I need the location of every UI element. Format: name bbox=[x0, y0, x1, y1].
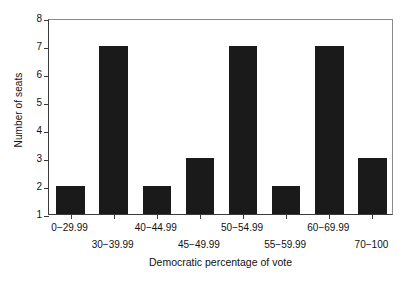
bars-group bbox=[49, 20, 392, 214]
y-tick-mark bbox=[44, 188, 49, 189]
x-axis-tick-labels: 0−29.9930−39.9940−44.9945−49.9950−54.995… bbox=[48, 222, 393, 258]
y-tick-label: 2 bbox=[16, 182, 42, 192]
y-tick-mark bbox=[44, 76, 49, 77]
x-tick-label: 60−69.99 bbox=[288, 222, 368, 234]
x-tick-label: 0−29.99 bbox=[30, 222, 110, 234]
bar bbox=[272, 186, 300, 214]
y-tick-label: 1 bbox=[16, 210, 42, 220]
bar-chart-figure: Number of seats 12345678 0−29.9930−39.99… bbox=[0, 0, 412, 281]
y-tick-label: 4 bbox=[16, 126, 42, 136]
y-tick-label: 3 bbox=[16, 154, 42, 164]
x-tick-mark bbox=[286, 214, 287, 219]
y-tick-label: 7 bbox=[16, 42, 42, 52]
x-tick-mark bbox=[329, 214, 330, 219]
x-tick-label: 40−44.99 bbox=[116, 222, 196, 234]
x-tick-label: 70−100 bbox=[331, 239, 411, 251]
y-tick-label: 5 bbox=[16, 98, 42, 108]
x-tick-mark bbox=[114, 214, 115, 219]
bar bbox=[143, 186, 171, 214]
x-tick-mark bbox=[200, 214, 201, 219]
bar bbox=[186, 158, 214, 214]
y-tick-label: 6 bbox=[16, 70, 42, 80]
bar bbox=[358, 158, 386, 214]
bar bbox=[99, 46, 127, 214]
x-tick-mark bbox=[243, 214, 244, 219]
bar bbox=[315, 46, 343, 214]
y-tick-mark bbox=[44, 216, 49, 217]
y-tick-mark bbox=[44, 104, 49, 105]
x-tick-label: 45−49.99 bbox=[159, 239, 239, 251]
x-tick-label: 55−59.99 bbox=[245, 239, 325, 251]
y-axis-tick-labels: 12345678 bbox=[14, 19, 42, 215]
bar bbox=[229, 46, 257, 214]
x-tick-mark bbox=[157, 214, 158, 219]
x-tick-label: 50−54.99 bbox=[202, 222, 282, 234]
y-tick-mark bbox=[44, 20, 49, 21]
bar bbox=[56, 186, 84, 214]
y-tick-label: 8 bbox=[16, 14, 42, 24]
x-tick-mark bbox=[71, 214, 72, 219]
x-tick-mark bbox=[372, 214, 373, 219]
plot-area bbox=[48, 19, 393, 215]
y-tick-mark bbox=[44, 160, 49, 161]
y-tick-mark bbox=[44, 132, 49, 133]
y-tick-mark bbox=[44, 48, 49, 49]
x-axis-title: Democratic percentage of vote bbox=[48, 256, 393, 269]
x-tick-label: 30−39.99 bbox=[73, 239, 153, 251]
